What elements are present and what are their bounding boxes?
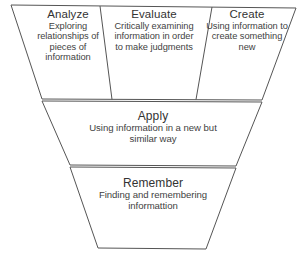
pyramid-level-apply: Apply Using information in a new but sim… (78, 110, 228, 145)
pyramid-level-analyze-title: Analyze (32, 8, 104, 21)
pyramid-level-evaluate-description: Critically examining information in orde… (111, 21, 197, 52)
pyramid-level-apply-title: Apply (78, 110, 228, 123)
pyramid-level-remember-title: Remember (92, 177, 214, 190)
pyramid-level-apply-description: Using information in a new but similar w… (78, 123, 228, 144)
pyramid-level-create-description: Using information to create something ne… (205, 21, 289, 52)
pyramid-level-evaluate: Evaluate Critically examining informatio… (111, 8, 197, 52)
pyramid-level-analyze: Analyze Exploring relationships of piece… (32, 8, 104, 63)
bloom-taxonomy-inverted-pyramid-diagram: Analyze Exploring relationships of piece… (0, 0, 303, 259)
pyramid-level-remember-description: Finding and remembering informattion (92, 190, 214, 211)
pyramid-level-analyze-description: Exploring relationships of pieces of inf… (32, 21, 104, 63)
pyramid-level-create-title: Create (205, 8, 289, 21)
pyramid-level-create: Create Using information to create somet… (205, 8, 289, 52)
pyramid-level-evaluate-title: Evaluate (111, 8, 197, 21)
pyramid-level-remember: Remember Finding and remembering informa… (92, 177, 214, 212)
